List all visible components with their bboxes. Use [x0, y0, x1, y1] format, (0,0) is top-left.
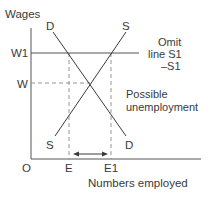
supply-top-label: S [122, 20, 130, 32]
unemployment-note-line2: unemployment [126, 101, 198, 113]
x-axis-label: Numbers employed [88, 177, 188, 189]
demand-top-label: D [46, 20, 54, 32]
y-axis-label: Wages [5, 8, 41, 20]
unemployment-note-line1: Possible [126, 88, 168, 100]
supply-bottom-label: S [46, 139, 54, 151]
w-label: W [17, 78, 28, 90]
w1-label: W1 [11, 47, 28, 59]
origin-label: O [22, 162, 31, 174]
arrow-right-head-icon [102, 152, 108, 157]
labour-market-diagram: Wages Numbers employed O W1 W E E1 D D S… [0, 0, 211, 200]
arrow-left-head-icon [73, 152, 79, 157]
omit-note-line1: Omit [158, 36, 181, 48]
e1-label: E1 [104, 162, 118, 174]
omit-note-line3: –S1 [161, 60, 181, 72]
demand-bottom-label: D [125, 139, 133, 151]
e-label: E [65, 162, 73, 174]
omit-note-line2: line S1 [148, 48, 182, 60]
